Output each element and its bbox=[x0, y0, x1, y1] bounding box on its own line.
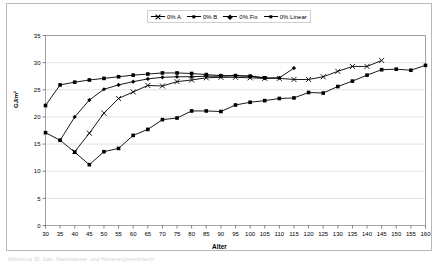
x-tick-label: 55 bbox=[115, 231, 122, 237]
x-tick-label: 150 bbox=[391, 231, 402, 237]
x-tick-label: 65 bbox=[144, 231, 151, 237]
x-tick-label: 75 bbox=[174, 231, 181, 237]
series-0 bbox=[72, 58, 384, 154]
x-tick-label: 50 bbox=[101, 231, 108, 237]
x-tick-label: 125 bbox=[318, 231, 329, 237]
x-tick-label: 95 bbox=[232, 231, 239, 237]
y-tick-label: 20 bbox=[34, 114, 41, 120]
x-tick-label: 30 bbox=[42, 231, 49, 237]
x-tick-label: 115 bbox=[289, 231, 299, 237]
y-tick-label: 25 bbox=[34, 87, 41, 93]
y-tick-label: 0 bbox=[37, 223, 41, 229]
series-2 bbox=[58, 66, 296, 142]
x-tick-label: 110 bbox=[275, 231, 285, 237]
x-tick-label: 40 bbox=[71, 231, 78, 237]
x-tick-label: 85 bbox=[203, 231, 210, 237]
series-1 bbox=[44, 71, 267, 107]
figure-caption: Abbildung 35: Gas- Warmwasser- und Heize… bbox=[8, 256, 154, 262]
x-tick-label: 60 bbox=[130, 231, 137, 237]
x-tick-label: 155 bbox=[406, 231, 417, 237]
figure-container: 0% A 0% B 0% Fix 0% Linear 0510152025303… bbox=[0, 0, 439, 270]
y-axis-title: GJ/m² bbox=[13, 91, 19, 108]
y-tick-label: 35 bbox=[34, 33, 41, 39]
x-tick-label: 135 bbox=[347, 231, 358, 237]
x-tick-label: 45 bbox=[86, 231, 93, 237]
x-tick-label: 120 bbox=[304, 231, 315, 237]
x-tick-label: 145 bbox=[377, 231, 388, 237]
x-tick-label: 105 bbox=[260, 231, 271, 237]
plot-border bbox=[46, 36, 426, 226]
x-tick-label: 160 bbox=[420, 231, 431, 237]
y-tick-label: 10 bbox=[34, 168, 41, 174]
x-tick-label: 90 bbox=[218, 231, 225, 237]
x-tick-label: 100 bbox=[245, 231, 256, 237]
x-axis-title: Alter bbox=[0, 243, 439, 250]
y-tick-label: 30 bbox=[34, 60, 41, 66]
x-tick-label: 140 bbox=[362, 231, 373, 237]
y-tick-label: 5 bbox=[37, 196, 41, 202]
x-tick-label: 70 bbox=[159, 231, 166, 237]
y-tick-label: 15 bbox=[34, 141, 41, 147]
x-tick-label: 35 bbox=[57, 231, 64, 237]
chart-plot-area: 0510152025303530354045505560657075808590… bbox=[0, 0, 439, 270]
x-tick-label: 130 bbox=[333, 231, 344, 237]
x-tick-label: 80 bbox=[188, 231, 195, 237]
